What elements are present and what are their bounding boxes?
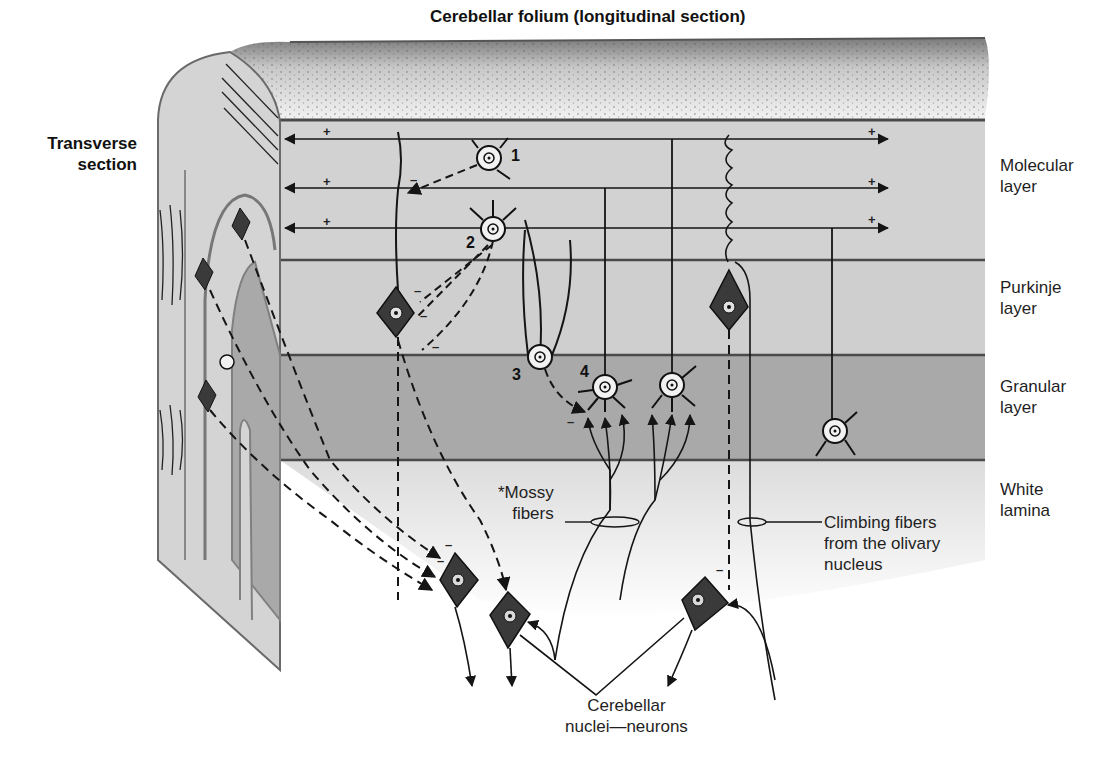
- sign-inhibitory: –: [716, 562, 723, 577]
- layer-label-molecular: Molecular layer: [1000, 155, 1074, 197]
- cerebellar-nuclei-label: Cerebellar nuclei—neurons: [565, 695, 688, 737]
- cell-number-1: 1: [511, 147, 520, 165]
- sign-excitatory: +: [323, 174, 331, 189]
- diagram-title: Cerebellar folium (longitudinal section): [430, 7, 745, 27]
- layer-label-white-lamina: White lamina: [1000, 479, 1050, 521]
- cell-number-4: 4: [580, 363, 589, 381]
- sign-excitatory: +: [868, 124, 876, 139]
- transverse-face: [158, 52, 280, 670]
- sign-excitatory: +: [868, 212, 876, 227]
- sign-excitatory: +: [323, 214, 331, 229]
- granular-layer-band: [280, 355, 985, 460]
- mossy-fibers-label: *Mossy fibers: [498, 482, 554, 524]
- cerebellar-folium-diagram: Cerebellar folium (longitudinal section)…: [0, 0, 1119, 771]
- transverse-section-label: Transverse section: [20, 133, 137, 175]
- cell-number-2: 2: [466, 234, 475, 252]
- diagram-canvas: [0, 0, 1119, 771]
- molecular-layer-band: [280, 120, 985, 260]
- sign-inhibitory: –: [414, 283, 421, 298]
- cell-number-3: 3: [512, 366, 521, 384]
- sign-inhibitory: –: [567, 414, 574, 429]
- sign-excitatory: +: [868, 174, 876, 189]
- folium-top-surface: [230, 38, 989, 122]
- sign-inhibitory: –: [445, 537, 452, 552]
- sign-excitatory: +: [323, 124, 331, 139]
- climbing-fibers-label: Climbing fibers from the olivary nucleus: [824, 512, 940, 575]
- sign-inhibitory: –: [410, 172, 417, 187]
- layer-label-granular: Granular layer: [1000, 376, 1066, 418]
- sign-inhibitory: –: [432, 339, 439, 354]
- sign-inhibitory: –: [420, 308, 427, 323]
- sign-inhibitory: –: [437, 553, 444, 568]
- sign-inhibitory: –: [428, 567, 435, 582]
- layer-label-purkinje: Purkinje layer: [1000, 277, 1061, 319]
